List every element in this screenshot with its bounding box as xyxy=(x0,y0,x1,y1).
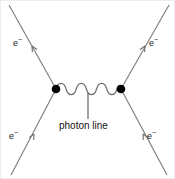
electron-charge-glyph: − xyxy=(18,36,22,43)
electron-charge-glyph: − xyxy=(154,36,158,43)
electron-charge-glyph: − xyxy=(14,129,18,136)
label-electron-upper-left: e− xyxy=(13,39,22,48)
label-electron-upper-right: e− xyxy=(149,39,158,48)
vertex-dot-right xyxy=(117,85,126,94)
feynman-diagram-figure: e− e− e− e− photon line xyxy=(0,0,175,179)
label-electron-lower-left: e− xyxy=(9,132,18,141)
label-photon-line: photon line xyxy=(59,121,108,131)
electron-charge-glyph: − xyxy=(152,129,156,136)
fermion-line-lower-right xyxy=(121,89,167,175)
feynman-diagram-canvas xyxy=(1,1,175,179)
vertex-dot-left xyxy=(52,85,61,94)
label-electron-lower-right: e− xyxy=(147,132,156,141)
photon-wavy-line xyxy=(56,83,121,94)
